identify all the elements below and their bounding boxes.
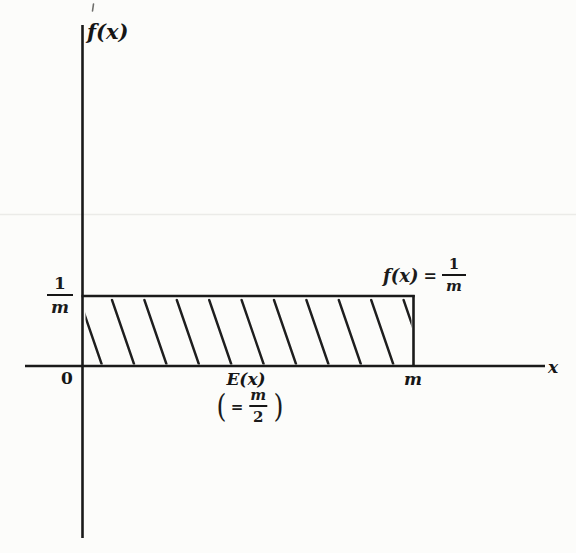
hatch-line: [371, 300, 393, 364]
density-equation-numerator: 1: [445, 257, 463, 274]
x-tick-m-label: m: [404, 371, 422, 388]
density-equation-equals: =: [424, 266, 437, 285]
hatch-line: [209, 300, 231, 364]
mean-equals: =: [230, 398, 245, 416]
hatch-line: [242, 300, 264, 364]
density-equation-denominator: m: [442, 274, 466, 294]
y-tick-numerator: 1: [50, 275, 70, 294]
mean-fraction: m 2: [246, 388, 270, 425]
mean-open-paren: (: [217, 392, 227, 421]
hatch-line: [306, 300, 328, 364]
mean-close-paren: ): [273, 392, 283, 421]
density-equation-fraction: 1 m: [442, 257, 466, 294]
hatch-line: [177, 300, 199, 364]
hatch-line: [274, 300, 296, 364]
hatch-line: [112, 300, 134, 364]
hatch-line: [144, 300, 166, 364]
mean-value-expression: ( = m 2 ): [215, 388, 284, 425]
figure-canvas: f(x) 1 m f(x) = 1 m 0 E(x) ( = m 2 ) m x: [0, 0, 576, 553]
mean-fraction-denominator: 2: [249, 405, 267, 425]
y-tick-value-fraction: 1 m: [44, 275, 76, 316]
density-equation-label: f(x) = 1 m: [383, 257, 466, 294]
hatch-line: [339, 300, 361, 364]
mean-fraction-numerator: m: [246, 388, 270, 405]
ink-speck: [93, 4, 94, 11]
y-tick-denominator: m: [47, 294, 73, 316]
y-axis-label: f(x): [87, 21, 128, 42]
density-equation-fx: f(x): [383, 265, 419, 286]
uniform-density-diagram: [0, 0, 576, 553]
origin-label: 0: [61, 370, 73, 387]
hatched-area: [80, 300, 426, 364]
x-axis-label: x: [548, 359, 558, 376]
